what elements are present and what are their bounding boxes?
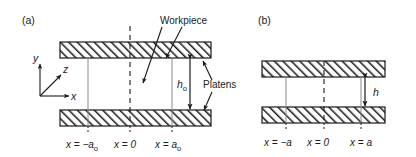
- panel-b-coord-label-center: x = 0: [306, 137, 329, 148]
- x-axis-label: x: [70, 90, 77, 102]
- panel-b-height-label: h: [373, 86, 379, 98]
- panel-a-label: (a): [22, 14, 35, 26]
- panel-b-coord-label-right: x = a: [349, 137, 372, 148]
- workpiece-label: Workpiece: [160, 15, 207, 26]
- panel-a-upper-platen: [60, 42, 211, 58]
- panel-a-lower-platen: [60, 110, 211, 126]
- panel-b-label: (b): [258, 14, 271, 26]
- figure-container: (a) y z x: [0, 0, 416, 157]
- y-axis-label: y: [32, 52, 39, 64]
- platens-label: Platens: [203, 79, 236, 90]
- z-axis-label: z: [62, 63, 69, 75]
- panel-a-coord-label-center: x = 0: [113, 139, 136, 150]
- figure-svg: (a) y z x: [0, 0, 416, 157]
- panel-b-coord-label-left: x = −a: [263, 137, 292, 148]
